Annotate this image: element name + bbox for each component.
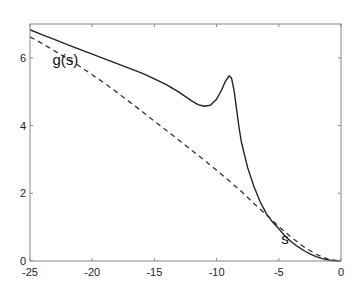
line-chart: -25-20-15-10-500246 g(s)s [0,0,360,293]
y-tick-label: 4 [20,120,26,132]
x-tick-label: -5 [274,266,284,278]
x-tick-label: -15 [146,266,162,278]
x-tick-label: -20 [84,266,100,278]
x-axis-annotation: s [281,230,289,247]
y-tick-label: 2 [20,187,26,199]
x-tick-label: -10 [209,266,225,278]
y-tick-label: 6 [20,52,26,64]
plot-background [0,0,360,293]
y-tick-label: 0 [20,255,26,267]
y-axis-annotation: g(s) [52,51,78,68]
x-tick-label: -25 [22,266,38,278]
x-tick-label: 0 [338,266,344,278]
